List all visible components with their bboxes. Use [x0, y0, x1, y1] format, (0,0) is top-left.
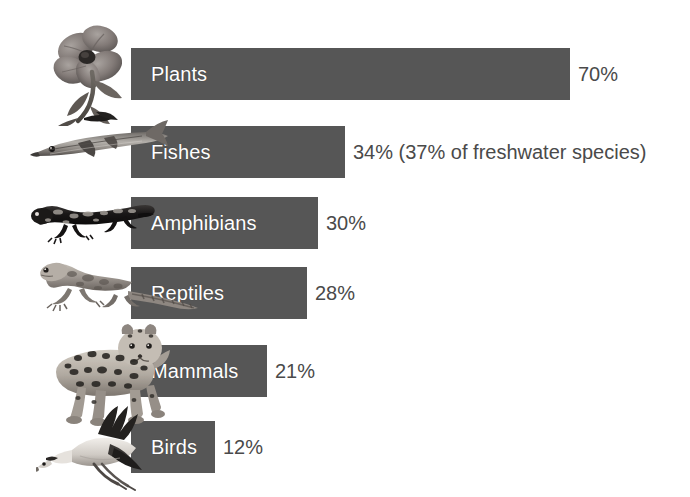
bar-label-birds: Birds — [151, 421, 197, 473]
chart-row-fishes: Fishes 34% (37% of freshwater species) — [0, 126, 690, 196]
bar-value-fishes: 34% (37% of freshwater species) — [353, 126, 646, 178]
chart-row-reptiles: Reptiles 28% — [0, 267, 690, 337]
chart-row-plants: Plants 70% — [0, 48, 690, 118]
bar-label-reptiles: Reptiles — [151, 267, 224, 319]
bar-value-mammals: 21% — [275, 345, 315, 397]
chart-row-mammals: Mammals 21% — [0, 345, 690, 415]
bar-label-fishes: Fishes — [151, 126, 211, 178]
bar-value-plants: 70% — [578, 48, 618, 100]
bar-label-mammals: Mammals — [151, 345, 238, 397]
bar-value-amphibians: 30% — [326, 197, 366, 249]
species-threat-bar-chart: Plants 70% Fishes 34% (37% of freshwater… — [0, 0, 690, 497]
bar-value-birds: 12% — [223, 421, 263, 473]
bar-label-plants: Plants — [151, 48, 207, 100]
chart-row-amphibians: Amphibians 30% — [0, 197, 690, 267]
bar-value-reptiles: 28% — [315, 267, 355, 319]
bar-label-amphibians: Amphibians — [151, 197, 257, 249]
chart-row-birds: Birds 12% — [0, 421, 690, 491]
